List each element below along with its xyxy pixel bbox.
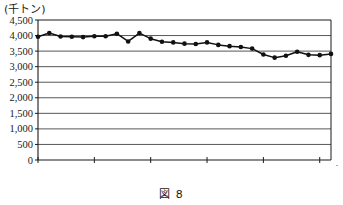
data-point-marker xyxy=(36,35,41,40)
x-axis-tick-label: 1990 xyxy=(28,165,49,166)
line-chart-svg: 05001,0001,5002,0002,5003,0003,5004,0004… xyxy=(0,14,343,166)
data-point-marker xyxy=(137,31,142,36)
data-point-marker xyxy=(239,45,244,50)
x-axis-tick-label: 2005 xyxy=(197,165,218,166)
data-point-marker xyxy=(47,31,52,36)
data-point-marker xyxy=(58,34,63,39)
figure-container: (千トン) 05001,0001,5002,0002,5003,0003,500… xyxy=(0,0,343,205)
data-point-marker xyxy=(317,53,322,58)
data-point-marker xyxy=(295,49,300,54)
x-axis-ticks-group: 199019952000200520102015 xyxy=(28,157,331,166)
y-axis-tick-label: 4,000 xyxy=(9,30,33,41)
data-point-marker xyxy=(103,34,108,39)
data-point-marker xyxy=(227,44,232,49)
y-axis-tick-label: 1,500 xyxy=(9,108,33,119)
data-point-marker xyxy=(115,31,120,36)
data-point-marker xyxy=(216,43,221,48)
data-point-marker xyxy=(81,35,86,40)
data-point-marker xyxy=(272,55,277,60)
x-axis-tick-label: 1995 xyxy=(84,165,105,166)
data-point-marker xyxy=(284,53,289,58)
y-axis-tick-label: 3,500 xyxy=(9,46,33,57)
x-axis-tick-label: 2000 xyxy=(140,165,161,166)
y-axis-tick-label: 4,500 xyxy=(9,15,33,26)
axes-group xyxy=(38,20,331,160)
y-axis-tick-label: 2,000 xyxy=(9,92,33,103)
chart-plot-area: 05001,0001,5002,0002,5003,0003,5004,0004… xyxy=(0,14,343,166)
y-axis-tick-label: 3,000 xyxy=(9,61,33,72)
y-axis-tick-label: 500 xyxy=(17,139,33,150)
x-axis-tick-label: 2015 xyxy=(309,165,330,166)
x-axis-unit-label: 年 xyxy=(334,164,343,166)
data-point-marker xyxy=(126,39,131,44)
data-point-marker xyxy=(261,52,266,57)
data-point-marker xyxy=(92,34,97,39)
data-point-marker xyxy=(148,36,153,41)
data-point-marker xyxy=(182,41,187,46)
data-point-marker xyxy=(193,42,198,47)
figure-caption: 図 8 xyxy=(0,185,343,201)
data-point-marker xyxy=(250,46,255,51)
y-axis-ticks-group: 05001,0001,5002,0002,5003,0003,5004,0004… xyxy=(9,15,38,166)
y-axis-tick-label: 1,000 xyxy=(9,123,33,134)
data-point-marker xyxy=(329,52,334,57)
data-point-marker xyxy=(205,40,210,45)
data-point-marker xyxy=(70,35,75,40)
gridlines-group xyxy=(38,36,331,145)
x-axis-tick-label: 2010 xyxy=(253,165,274,166)
y-axis-tick-label: 0 xyxy=(28,155,33,166)
y-axis-tick-label: 2,500 xyxy=(9,77,33,88)
data-point-marker xyxy=(160,39,165,44)
data-point-marker xyxy=(306,53,311,58)
data-point-marker xyxy=(171,40,176,45)
